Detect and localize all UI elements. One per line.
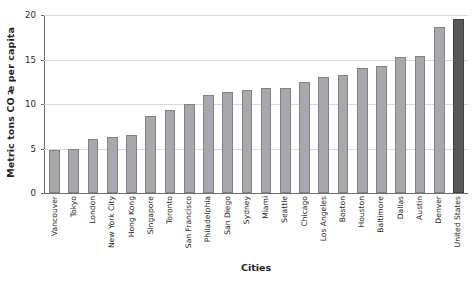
x-tick-label-slot: Austin (410, 196, 429, 258)
x-tick-label: Baltimore (378, 196, 386, 233)
x-tick-label-slot: New York City (103, 196, 122, 258)
bar-slot (126, 15, 137, 193)
x-tick-label-slot: Sydney (237, 196, 256, 258)
bar[interactable] (145, 116, 156, 193)
bar-slot (357, 15, 368, 193)
bar-slot (242, 15, 253, 193)
x-tick-label: United States (455, 196, 463, 247)
x-tick-label-slot: Dallas (391, 196, 410, 258)
y-tick-label: 0 (10, 188, 36, 198)
bar[interactable] (165, 110, 176, 193)
x-tick-label-slot: Denver (430, 196, 449, 258)
x-tick-label: Austin (416, 196, 424, 220)
bar[interactable] (49, 150, 60, 193)
bar-slot (49, 15, 60, 193)
bar-slot (203, 15, 214, 193)
y-axis-title-subscript: 2 (7, 90, 15, 95)
x-tick-label-slot: Tokyo (64, 196, 83, 258)
bar-slot (261, 15, 272, 193)
x-tick-label-slot: San Francisco (180, 196, 199, 258)
x-tick-label: Sydney (243, 196, 251, 224)
y-tick-label: 5 (10, 144, 36, 154)
bar-slot (395, 15, 406, 193)
bar[interactable] (395, 57, 406, 193)
bar-slot (107, 15, 118, 193)
x-axis-title: Cities (44, 262, 468, 273)
x-tick-label-slot: United States (449, 196, 468, 258)
bar[interactable] (242, 90, 253, 193)
bar-slot (318, 15, 329, 193)
x-tick-label-slot: Vancouver (45, 196, 64, 258)
x-tick-label: Miami (262, 196, 270, 219)
bar[interactable] (184, 104, 195, 193)
bar-slot (299, 15, 310, 193)
bar-slot (222, 15, 233, 193)
x-tick-label: Singapore (147, 196, 155, 234)
x-tick-label: San Francisco (185, 196, 193, 248)
y-tick-mark (41, 15, 45, 16)
bar-chart-figure: Metric tons CO2e per capita 05101520 Van… (0, 0, 472, 286)
bar-slot (88, 15, 99, 193)
x-tick-label-slot: Toronto (160, 196, 179, 258)
bar[interactable] (453, 19, 464, 193)
x-tick-label: Boston (339, 196, 347, 222)
x-tick-label-slot: London (83, 196, 102, 258)
bar-slot (415, 15, 426, 193)
x-tick-label: London (89, 196, 97, 224)
bar[interactable] (261, 88, 272, 193)
bar[interactable] (280, 88, 291, 193)
bar-slot (145, 15, 156, 193)
bar[interactable] (318, 77, 329, 193)
x-tick-label-slot: Hong Kong (122, 196, 141, 258)
y-tick-mark (41, 149, 45, 150)
x-tick-label-slot: Seattle (276, 196, 295, 258)
x-tick-label: Philadelphia (205, 196, 213, 242)
bar-slot (376, 15, 387, 193)
x-tick-label: San Diego (224, 196, 232, 235)
x-tick-label: Seattle (282, 196, 290, 223)
x-tick-label: Chicago (301, 196, 309, 227)
y-tick-mark (41, 104, 45, 105)
y-tick-mark (41, 60, 45, 61)
x-tick-label: Los Angeles (320, 196, 328, 241)
bar[interactable] (107, 137, 118, 193)
bar-slot (165, 15, 176, 193)
bar-slot (338, 15, 349, 193)
bar-slot (184, 15, 195, 193)
x-tick-label-slot: Baltimore (372, 196, 391, 258)
x-tick-label-slot: San Diego (218, 196, 237, 258)
x-tick-label: Denver (435, 196, 443, 224)
bar-slot (434, 15, 445, 193)
y-tick-label: 15 (10, 55, 36, 65)
bar[interactable] (434, 27, 445, 193)
bar-series (45, 15, 468, 193)
x-tick-label-slot: Singapore (141, 196, 160, 258)
bar[interactable] (376, 66, 387, 193)
y-tick-label: 10 (10, 99, 36, 109)
bar[interactable] (338, 75, 349, 193)
bar[interactable] (68, 149, 79, 194)
x-tick-label: Houston (358, 196, 366, 228)
x-tick-label: Hong Kong (128, 196, 136, 237)
bar[interactable] (415, 56, 426, 193)
x-tick-label: Toronto (166, 196, 174, 224)
x-tick-label: New York City (108, 196, 116, 248)
bar-slot (280, 15, 291, 193)
x-tick-label-slot: Boston (333, 196, 352, 258)
bar[interactable] (88, 139, 99, 193)
bar[interactable] (299, 82, 310, 193)
bar[interactable] (357, 68, 368, 193)
x-tick-label: Dallas (397, 196, 405, 219)
x-tick-label-slot: Miami (257, 196, 276, 258)
bar[interactable] (203, 95, 214, 193)
y-axis-title-pre: Metric tons CO (5, 97, 16, 178)
bar[interactable] (126, 135, 137, 193)
bar[interactable] (222, 92, 233, 193)
y-tick-label: 20 (10, 10, 36, 20)
x-tick-label: Vancouver (51, 196, 59, 236)
x-axis-line (44, 193, 468, 194)
x-tick-label-slot: Los Angeles (314, 196, 333, 258)
x-tick-label: Tokyo (70, 196, 78, 217)
bar-slot (453, 15, 464, 193)
bar-slot (68, 15, 79, 193)
